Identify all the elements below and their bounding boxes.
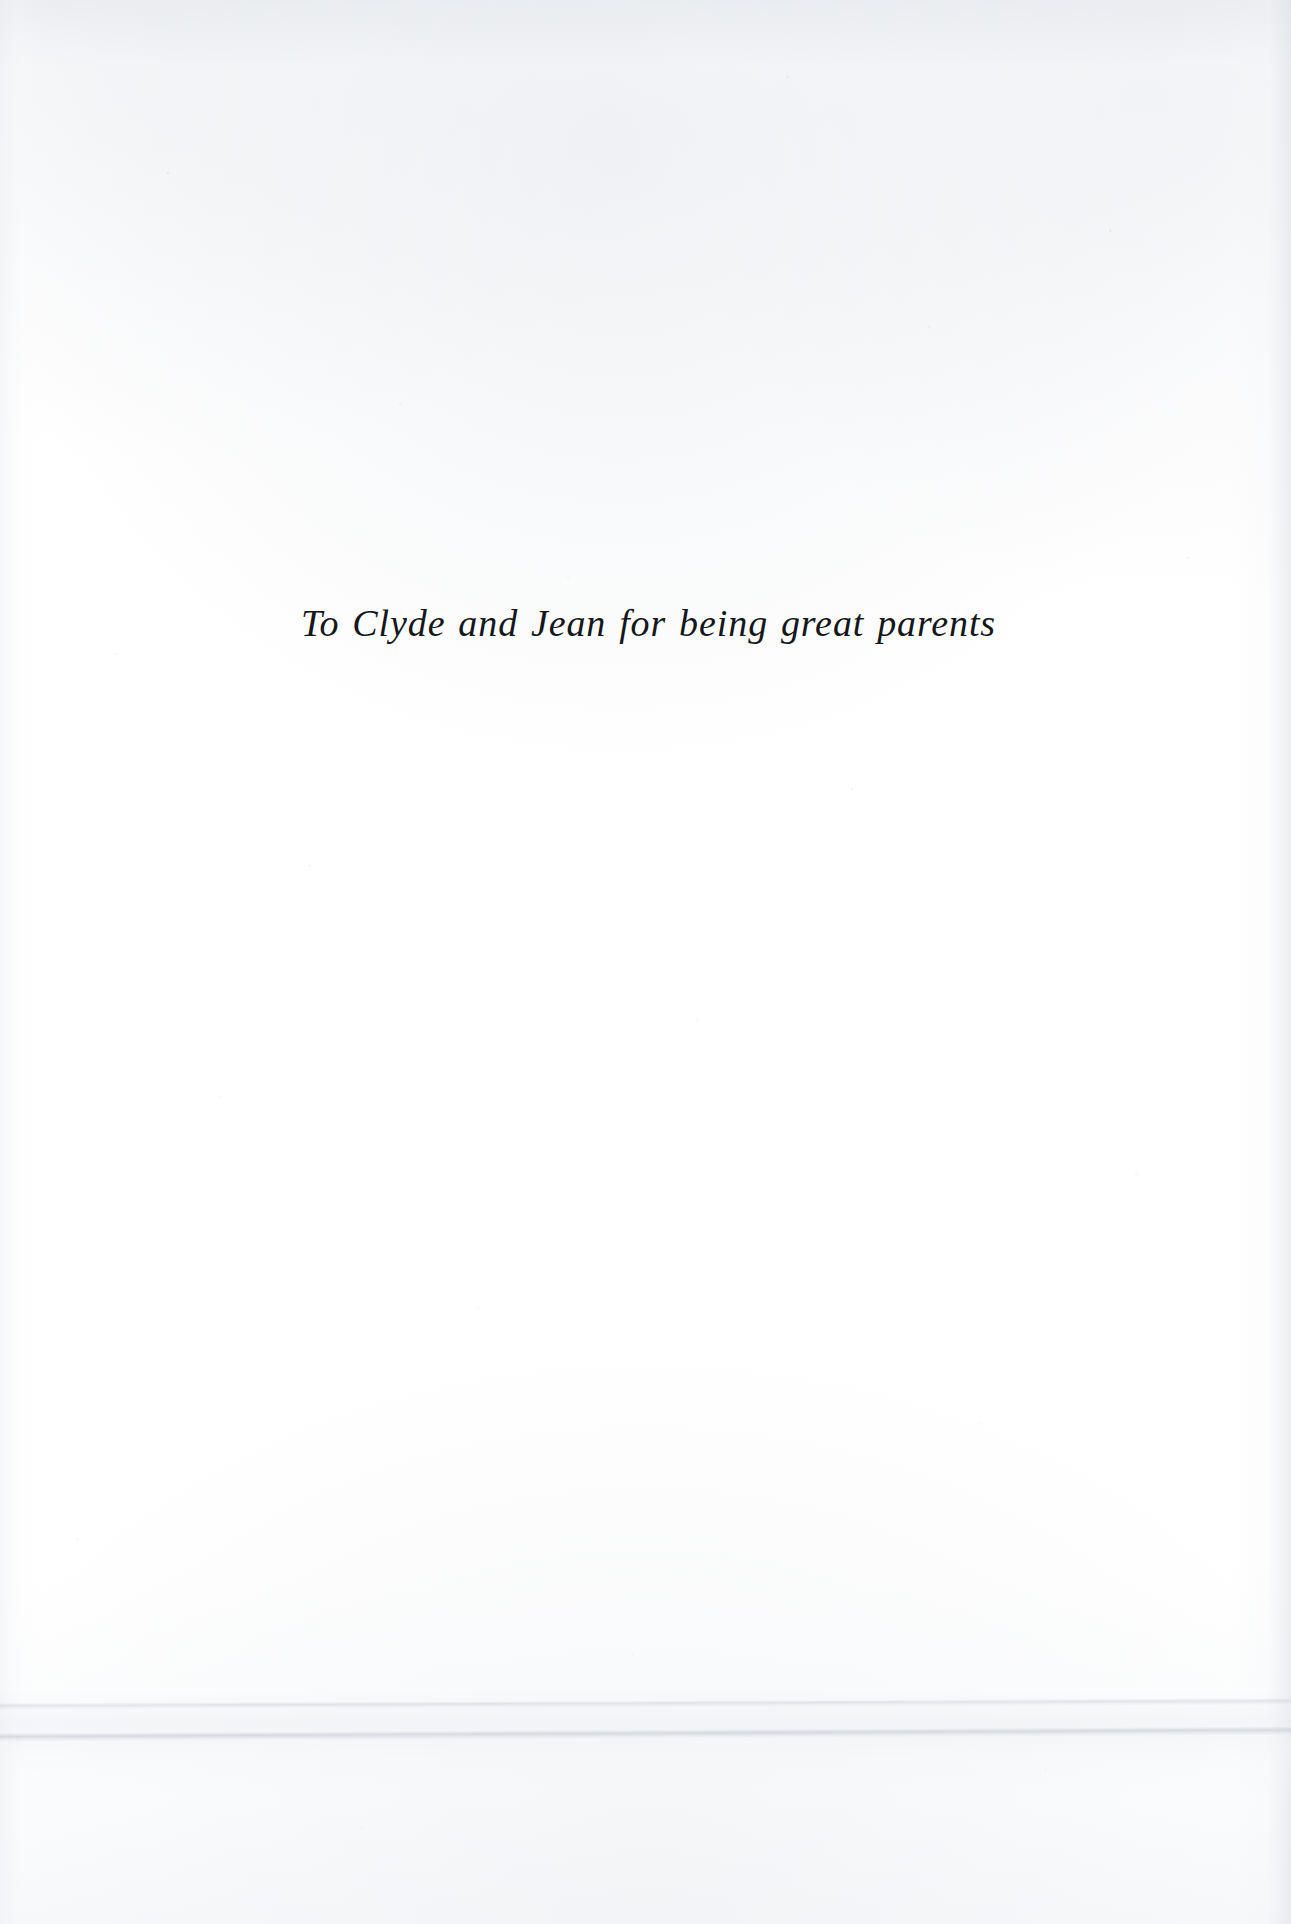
bottom-fold-haze xyxy=(0,1690,1291,1800)
paper-speckle-texture xyxy=(0,0,1291,1924)
top-edge-shading xyxy=(0,0,1291,120)
dedication-text: To Clyde and Jean for being great parent… xyxy=(295,604,996,642)
dedication-block: To Clyde and Jean for being great parent… xyxy=(0,604,1291,642)
right-edge-shading xyxy=(1233,0,1291,1924)
left-edge-shading xyxy=(0,0,42,1924)
paper-crease-line-upper xyxy=(0,1698,1291,1710)
paper-background xyxy=(0,0,1291,1924)
paper-crease-line-lower xyxy=(0,1726,1291,1742)
scanned-page: To Clyde and Jean for being great parent… xyxy=(0,0,1291,1924)
